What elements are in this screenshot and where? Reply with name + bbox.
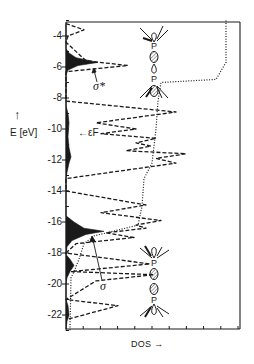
dos-curves xyxy=(66,21,226,331)
svg-text:P: P xyxy=(151,258,157,268)
y-tick-label: -6 xyxy=(53,62,62,72)
series-dotted xyxy=(70,21,226,331)
svg-text:P: P xyxy=(151,41,157,51)
y-tick-label: -16 xyxy=(48,217,62,227)
orbital-sigma-icon: P P xyxy=(140,246,169,317)
series-dashed xyxy=(66,24,186,320)
y-axis-label: E [eV] xyxy=(10,128,37,138)
x-axis-label: DOS → xyxy=(131,340,164,349)
y-tick-label: -8 xyxy=(53,93,62,103)
sigma-label: σ xyxy=(100,280,106,292)
fermi-level-label: ←εF xyxy=(78,128,99,138)
dos-chart: P P P P xyxy=(0,0,254,364)
y-tick-label: -20 xyxy=(48,279,62,289)
orbital-sigma-star-icon: P P xyxy=(140,26,168,98)
y-tick-label: -10 xyxy=(48,124,62,134)
y-tick-label: -12 xyxy=(48,155,62,165)
y-tick-label: -18 xyxy=(48,248,62,258)
y-tick-label: -14 xyxy=(48,186,62,196)
y-tick-label: -22 xyxy=(48,310,62,320)
sigma-star-label: σ* xyxy=(93,80,105,92)
y-tick-label: -4 xyxy=(53,31,62,41)
svg-text:P: P xyxy=(151,74,157,84)
series-filled-black xyxy=(66,24,104,331)
svg-text:P: P xyxy=(151,295,157,305)
y-axis-arrow-icon: ↑ xyxy=(14,108,21,121)
